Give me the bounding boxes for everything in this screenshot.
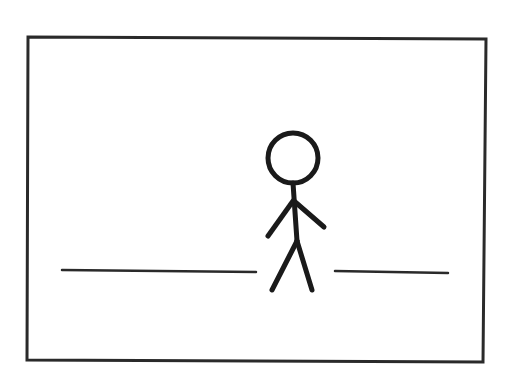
frame-border: [27, 37, 486, 362]
figure-left-leg: [272, 241, 297, 290]
ground-line-left: [62, 270, 256, 272]
ground-line-right: [335, 271, 448, 273]
drawing-canvas: [0, 0, 511, 386]
figure-right-arm: [294, 201, 324, 227]
figure-body: [293, 183, 297, 241]
figure-left-arm: [268, 201, 293, 236]
figure-right-leg: [297, 241, 312, 290]
figure-head: [268, 133, 318, 183]
stick-figure: [268, 133, 324, 290]
